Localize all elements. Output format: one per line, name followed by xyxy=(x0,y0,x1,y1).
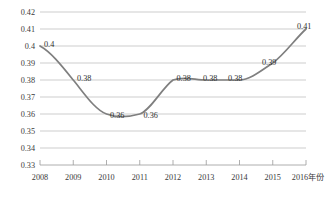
y-tick-label: 0.34 xyxy=(21,144,35,153)
y-tick-label: 0.36 xyxy=(21,110,35,119)
y-tick-label: 0.39 xyxy=(21,59,35,68)
line-chart: 0.42 0.41 0.4 0.39 0.38 0.37 0.36 0.35 0… xyxy=(0,0,326,200)
data-label: 0.38 xyxy=(228,74,242,83)
y-axis-labels: 0.42 0.41 0.4 0.39 0.38 0.37 0.36 0.35 0… xyxy=(21,8,35,170)
data-label: 0.38 xyxy=(177,74,191,83)
y-tick-label: 0.33 xyxy=(21,161,35,170)
y-tick-label: 0.37 xyxy=(21,93,35,102)
x-tick-label: 2008 xyxy=(32,173,48,182)
x-tick-label: 2010 xyxy=(98,173,114,182)
y-tick-label: 0.42 xyxy=(21,8,35,17)
data-labels: 0.4 0.38 0.36 0.36 0.38 0.38 0.38 0.39 0… xyxy=(44,22,311,120)
x-tick-label: 2015 xyxy=(265,173,281,182)
data-label: 0.36 xyxy=(110,111,124,120)
y-tick-label: 0.35 xyxy=(21,127,35,136)
y-tick-label: 0.41 xyxy=(21,25,35,34)
data-label: 0.4 xyxy=(44,40,54,49)
x-axis-title: 年份 xyxy=(308,172,324,182)
data-label: 0.38 xyxy=(77,74,91,83)
y-tick-label: 0.4 xyxy=(25,42,35,51)
x-axis-labels: 2008 2009 2010 2011 2012 2013 2014 2015 … xyxy=(32,173,308,182)
x-tick-label: 2012 xyxy=(165,173,181,182)
x-tick-marks xyxy=(40,160,306,165)
x-tick-label: 2014 xyxy=(231,173,247,182)
data-label: 0.41 xyxy=(297,22,311,31)
x-tick-label: 2016 xyxy=(292,173,308,182)
data-label: 0.36 xyxy=(144,111,158,120)
x-tick-label: 2013 xyxy=(198,173,214,182)
x-tick-label: 2009 xyxy=(65,173,81,182)
series-line-path xyxy=(40,29,306,117)
chart-canvas: 0.42 0.41 0.4 0.39 0.38 0.37 0.36 0.35 0… xyxy=(0,0,326,200)
data-label: 0.39 xyxy=(262,58,276,67)
x-tick-label: 2011 xyxy=(132,173,148,182)
y-tick-label: 0.38 xyxy=(21,76,35,85)
data-label: 0.38 xyxy=(203,74,217,83)
